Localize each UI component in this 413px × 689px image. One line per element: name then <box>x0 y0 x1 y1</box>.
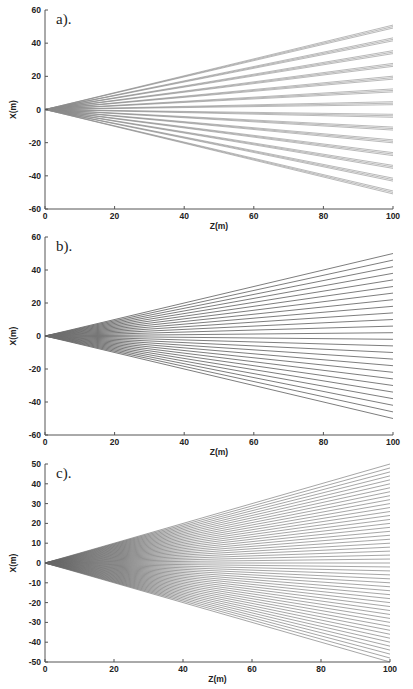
ray-line <box>45 336 393 386</box>
ray-line <box>45 300 393 336</box>
x-tick-label: 20 <box>109 664 119 674</box>
figure: 6040200-20-40-60020406080100Z(m)X(m)a). … <box>0 0 413 689</box>
y-tick-label: 20 <box>32 71 42 81</box>
y-tick-label: -20 <box>29 364 42 374</box>
y-tick-label: -60 <box>29 430 42 440</box>
y-tick-label: 60 <box>32 232 42 242</box>
panel-label: c). <box>56 465 71 482</box>
panel-c: 50403020100-10-20-30-40-50020406080100Z(… <box>8 459 397 684</box>
panel-label: b). <box>56 238 72 255</box>
y-tick-label: 60 <box>32 5 42 15</box>
ray-line <box>45 336 393 399</box>
x-tick-label: 100 <box>386 211 400 221</box>
x-tick-label: 20 <box>110 437 120 447</box>
panel-b: 6040200-20-40-60020406080100Z(m)X(m)b). <box>8 232 400 457</box>
ray-line <box>45 254 393 337</box>
ray-line <box>45 336 393 372</box>
ray-line <box>45 563 390 599</box>
x-tick-label: 0 <box>43 211 48 221</box>
x-tick-label: 40 <box>179 211 189 221</box>
y-tick-label: -20 <box>29 138 42 148</box>
y-tick-label: -30 <box>29 617 42 627</box>
ray-line <box>45 563 390 622</box>
x-tick-label: 80 <box>319 437 329 447</box>
y-tick-label: 0 <box>36 105 41 115</box>
ray-line <box>45 488 390 563</box>
y-tick-label: -60 <box>29 204 42 214</box>
x-tick-label: 40 <box>179 437 189 447</box>
ray-line <box>45 267 393 336</box>
y-tick-label: -10 <box>29 578 42 588</box>
y-axis-label: X(m) <box>8 326 18 345</box>
y-tick-label: -20 <box>29 598 42 608</box>
x-axis-label: Z(m) <box>210 447 229 457</box>
ray-line <box>45 336 393 366</box>
y-tick-label: 30 <box>32 499 42 509</box>
y-tick-label: 40 <box>32 479 42 489</box>
ray-line <box>45 504 390 563</box>
ray-line <box>45 273 393 336</box>
y-tick-label: -50 <box>29 657 42 667</box>
y-tick-label: 10 <box>32 538 42 548</box>
y-tick-label: -40 <box>29 171 42 181</box>
ray-line <box>45 293 393 336</box>
ray-line <box>45 563 390 662</box>
ray-line <box>45 468 390 563</box>
ray-line <box>45 76 393 109</box>
ray-line <box>45 336 393 405</box>
x-tick-label: 40 <box>178 664 188 674</box>
ray-line <box>45 38 393 110</box>
ray-line <box>45 464 390 563</box>
panel-label: a). <box>56 11 71 28</box>
ray-line <box>45 563 390 595</box>
y-tick-label: 20 <box>32 298 42 308</box>
x-tick-label: 0 <box>43 437 48 447</box>
ray-line <box>45 508 390 563</box>
x-tick-label: 0 <box>43 664 48 674</box>
y-tick-label: 0 <box>36 558 41 568</box>
y-axis-label: X(m) <box>8 100 18 119</box>
ray-line <box>45 336 393 419</box>
ray-line <box>45 287 393 337</box>
y-tick-label: 50 <box>32 459 42 469</box>
y-tick-label: 40 <box>32 38 42 48</box>
ray-line <box>45 563 390 646</box>
y-axis-label: X(m) <box>8 553 18 572</box>
panel-a: 6040200-20-40-60020406080100Z(m)X(m)a). <box>8 5 400 231</box>
y-tick-label: 20 <box>32 518 42 528</box>
ray-line <box>45 306 393 336</box>
ray-line <box>45 500 390 563</box>
ray-line <box>45 563 390 634</box>
ray-line <box>45 563 390 618</box>
ray-line <box>45 110 393 166</box>
x-axis-label: Z(m) <box>210 221 229 231</box>
x-tick-label: 100 <box>383 664 397 674</box>
x-tick-label: 60 <box>249 437 259 447</box>
ray-line <box>45 110 393 191</box>
y-tick-label: -40 <box>29 397 42 407</box>
x-tick-label: 20 <box>110 211 120 221</box>
ray-line <box>45 563 390 626</box>
ray-line <box>45 531 390 563</box>
x-axis-label: Z(m) <box>208 674 227 684</box>
ray-line <box>45 492 390 563</box>
x-tick-label: 100 <box>386 437 400 447</box>
y-tick-label: 0 <box>36 331 41 341</box>
ray-line <box>45 563 390 638</box>
x-tick-label: 80 <box>319 211 329 221</box>
ray-line <box>45 480 390 563</box>
x-tick-label: 60 <box>249 211 259 221</box>
y-tick-label: -40 <box>29 637 42 647</box>
ray-line <box>45 527 390 563</box>
x-tick-label: 80 <box>316 664 326 674</box>
ray-line <box>45 563 390 658</box>
ray-line <box>45 336 393 379</box>
x-tick-label: 60 <box>247 664 257 674</box>
y-tick-label: 40 <box>32 265 42 275</box>
ray-line <box>45 25 393 109</box>
